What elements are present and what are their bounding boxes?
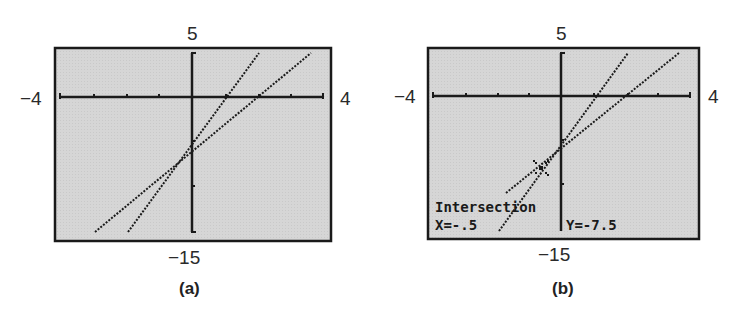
- x-readout: X=-.5: [435, 218, 477, 232]
- ymax-label: 5: [556, 24, 567, 43]
- xmax-label: 4: [340, 89, 351, 108]
- ymin-label: −15: [168, 248, 200, 267]
- xmax-label: 4: [708, 87, 719, 106]
- panel-caption: (b): [552, 280, 574, 297]
- ymin-label: −15: [538, 245, 570, 264]
- xmin-label: −4: [394, 87, 416, 106]
- xmin-label: −4: [20, 89, 42, 108]
- y-readout: Y=-7.5: [566, 218, 617, 232]
- graph-panel-a: 5 −4 4 −15 (a): [0, 0, 378, 322]
- calculator-screen-a: [0, 0, 378, 322]
- ymax-label: 5: [187, 24, 198, 43]
- graph-panel-b: Intersection X=-.5 Y=-7.5 5 −4 4 −15 (b): [378, 0, 756, 322]
- calculator-screen-b: [378, 0, 756, 322]
- intersection-title: Intersection: [435, 200, 536, 214]
- panel-caption: (a): [179, 280, 200, 297]
